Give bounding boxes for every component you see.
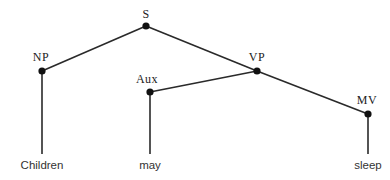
syntax-tree [0, 0, 390, 180]
node-dot-mv [364, 110, 371, 117]
node-label-vp: VP [249, 50, 265, 65]
node-label-mv: MV [357, 93, 377, 108]
node-dot-s [142, 22, 149, 29]
edge-s-np [42, 26, 146, 71]
leaf-word-may: may [139, 159, 161, 171]
tree-edges [42, 26, 368, 154]
node-dot-vp [253, 67, 260, 74]
edge-s-vp [146, 26, 257, 71]
edge-vp-mv [257, 71, 368, 114]
node-dot-np [38, 67, 45, 74]
node-dot-aux [146, 88, 153, 95]
node-label-np: NP [33, 50, 49, 65]
node-label-aux: Aux [136, 72, 158, 87]
node-label-s: S [142, 7, 149, 22]
leaf-word-children: Children [21, 159, 64, 171]
leaf-word-sleep: sleep [354, 159, 382, 171]
edge-vp-aux [150, 71, 257, 92]
tree-node-dots [38, 22, 371, 117]
